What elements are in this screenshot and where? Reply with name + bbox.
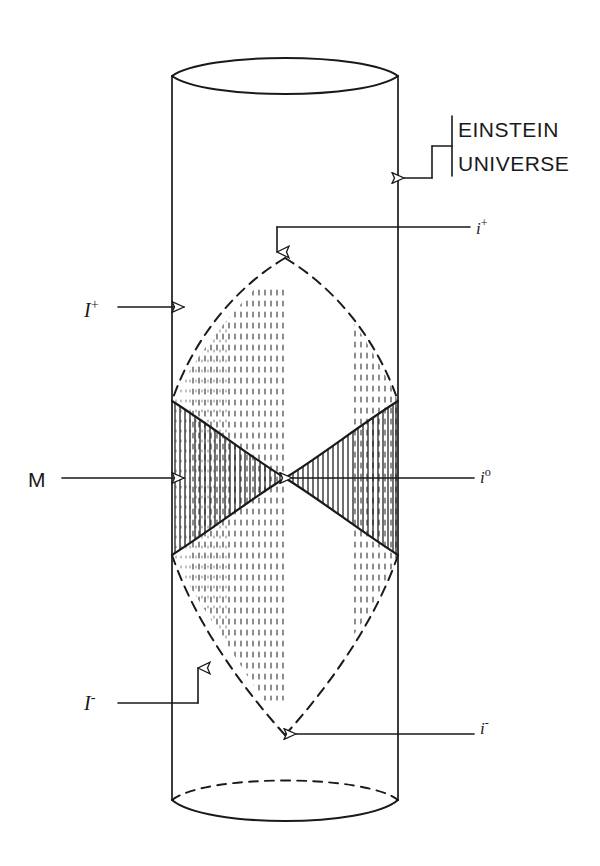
null-boundary-back-dashed	[172, 258, 398, 735]
scri-minus-leader	[118, 668, 198, 703]
hatch-back-upper-left-dotted	[176, 300, 226, 480]
cylinder-bottom-ellipse	[172, 781, 398, 822]
scri-minus-superscript: -	[91, 689, 96, 705]
cylinder-side-walls	[172, 76, 398, 800]
i-zero-label: io	[480, 465, 491, 488]
manifold-label: M	[28, 468, 46, 492]
hatch-upper-right-solid	[288, 380, 396, 490]
scri-plus-base: I	[84, 299, 91, 321]
scri-plus-label: I+	[84, 296, 99, 322]
einstein-universe-label-line2: UNIVERSE	[458, 152, 569, 176]
einstein-universe-label-line1: EINSTEIN	[458, 118, 559, 142]
i-plus-label: i+	[476, 216, 488, 239]
scri-minus-label: I-	[84, 689, 95, 715]
hatch-lower-right-solid	[288, 470, 396, 580]
cylinder-top-ellipse	[172, 58, 398, 94]
i-plus-leader	[277, 227, 470, 252]
i-minus-superscript: -	[485, 716, 489, 730]
hatch-back-lower-right-dashed	[355, 476, 396, 650]
i-zero-superscript: o	[485, 465, 491, 479]
i-plus-superscript: +	[481, 216, 488, 230]
einstein-universe-leader	[404, 116, 452, 178]
scri-plus-superscript: +	[91, 296, 99, 312]
i-minus-label: i-	[480, 716, 489, 739]
hatch-back-upper-left-dashed	[193, 290, 283, 480]
hatch-back-lower-left-dotted	[176, 476, 226, 700]
hatch-back-upper-right-dashed	[355, 320, 396, 480]
scri-minus-base: I	[84, 692, 91, 714]
